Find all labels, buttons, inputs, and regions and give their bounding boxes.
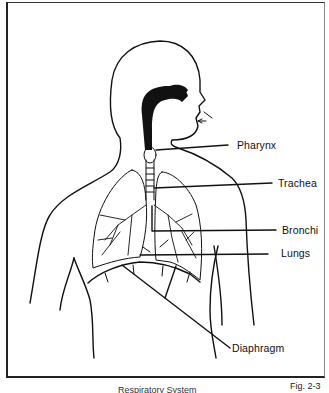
figure-number: Fig. 2-3: [290, 381, 321, 391]
bronchi-leader: [152, 206, 276, 231]
label-diaphragm: Diaphragm: [232, 342, 284, 354]
nasal-pharynx-shading: [142, 86, 188, 150]
respiratory-diagram: [0, 0, 329, 393]
label-trachea: Trachea: [278, 177, 317, 189]
bronchi-tree-left: [98, 205, 146, 255]
body-outline-left: [30, 41, 254, 325]
bronchi-tree-right: [154, 205, 196, 262]
diaphragm-leader: [122, 265, 230, 348]
pharynx-leader: [156, 145, 228, 150]
trachea: [146, 160, 154, 200]
diaphragm-leader-2: [165, 266, 176, 298]
torso-right-arm: [214, 246, 222, 325]
torso-left-arm: [60, 258, 74, 310]
lungs-leader: [140, 254, 268, 255]
figure-caption: Respiratory System: [118, 385, 197, 393]
label-bronchi: Bronchi: [282, 224, 318, 236]
breath-arrows: [198, 112, 212, 123]
diaphragm-dome: [88, 262, 200, 283]
trachea-leader: [154, 183, 272, 188]
torso-left: [74, 258, 94, 358]
label-lungs: Lungs: [281, 247, 310, 259]
label-pharynx: Pharynx: [237, 139, 276, 151]
